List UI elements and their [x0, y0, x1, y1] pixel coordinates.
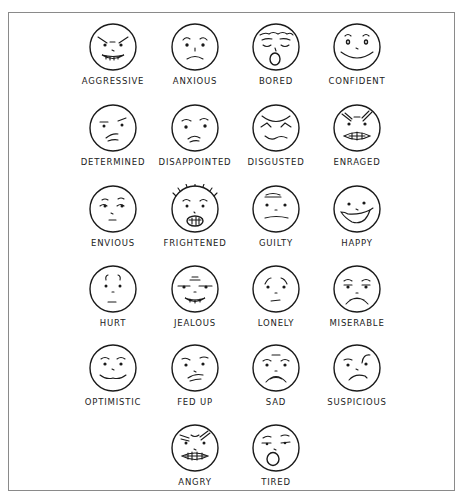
angry-face-icon: [170, 423, 220, 473]
face-happy: HAPPY: [312, 184, 402, 264]
face-optimistic: OPTIMISTIC: [68, 343, 158, 423]
face-label: HURT: [68, 318, 158, 328]
face-suspicious: SUSPICIOUS: [312, 343, 402, 423]
face-sad: SAD: [231, 343, 321, 423]
anxious-face-icon: [170, 22, 220, 72]
suspicious-face-icon: [332, 343, 382, 393]
face-envious: ENVIOUS: [68, 184, 158, 264]
face-label: ANGRY: [150, 477, 240, 487]
face-label: OPTIMISTIC: [68, 397, 158, 407]
happy-face-icon: [332, 184, 382, 234]
envious-face-icon: [88, 184, 138, 234]
face-disgusted: DISGUSTED: [231, 103, 321, 183]
face-label: CONFIDENT: [312, 76, 402, 86]
face-tired: TIRED: [231, 423, 321, 503]
face-label: SUSPICIOUS: [312, 397, 402, 407]
face-label: BORED: [231, 76, 321, 86]
miserable-face-icon: [332, 264, 382, 314]
face-label: ENRAGED: [312, 157, 402, 167]
face-label: JEALOUS: [150, 318, 240, 328]
face-label: FED UP: [150, 397, 240, 407]
face-lonely: LONELY: [231, 264, 321, 344]
face-frightened: FRIGHTENED: [150, 184, 240, 264]
face-guilty: GUILTY: [231, 184, 321, 264]
aggressive-face-icon: [88, 22, 138, 72]
lonely-face-icon: [251, 264, 301, 314]
sad-face-icon: [251, 343, 301, 393]
enraged-face-icon: [332, 103, 382, 153]
face-label: DISAPPOINTED: [150, 157, 240, 167]
bored-face-icon: [251, 22, 301, 72]
face-label: FRIGHTENED: [150, 238, 240, 248]
face-label: MISERABLE: [312, 318, 402, 328]
disgusted-face-icon: [251, 103, 301, 153]
face-miserable: MISERABLE: [312, 264, 402, 344]
jealous-face-icon: [170, 264, 220, 314]
face-hurt: HURT: [68, 264, 158, 344]
confident-face-icon: [332, 22, 382, 72]
face-label: ANXIOUS: [150, 76, 240, 86]
face-determined: DETERMINED: [68, 103, 158, 183]
face-aggressive: AGGRESSIVE: [68, 22, 158, 102]
disappointed-face-icon: [170, 103, 220, 153]
determined-face-icon: [88, 103, 138, 153]
face-fed-up: FED UP: [150, 343, 240, 423]
frightened-face-icon: [170, 184, 220, 234]
face-label: ENVIOUS: [68, 238, 158, 248]
face-label: GUILTY: [231, 238, 321, 248]
face-disappointed: DISAPPOINTED: [150, 103, 240, 183]
fed-up-face-icon: [170, 343, 220, 393]
face-anxious: ANXIOUS: [150, 22, 240, 102]
face-label: HAPPY: [312, 238, 402, 248]
face-label: LONELY: [231, 318, 321, 328]
face-label: DETERMINED: [68, 157, 158, 167]
face-label: SAD: [231, 397, 321, 407]
hurt-face-icon: [88, 264, 138, 314]
face-bored: BORED: [231, 22, 321, 102]
tired-face-icon: [251, 423, 301, 473]
optimistic-face-icon: [88, 343, 138, 393]
face-label: TIRED: [231, 477, 321, 487]
face-enraged: ENRAGED: [312, 103, 402, 183]
face-label: DISGUSTED: [231, 157, 321, 167]
face-confident: CONFIDENT: [312, 22, 402, 102]
face-label: AGGRESSIVE: [68, 76, 158, 86]
face-jealous: JEALOUS: [150, 264, 240, 344]
guilty-face-icon: [251, 184, 301, 234]
face-angry: ANGRY: [150, 423, 240, 503]
